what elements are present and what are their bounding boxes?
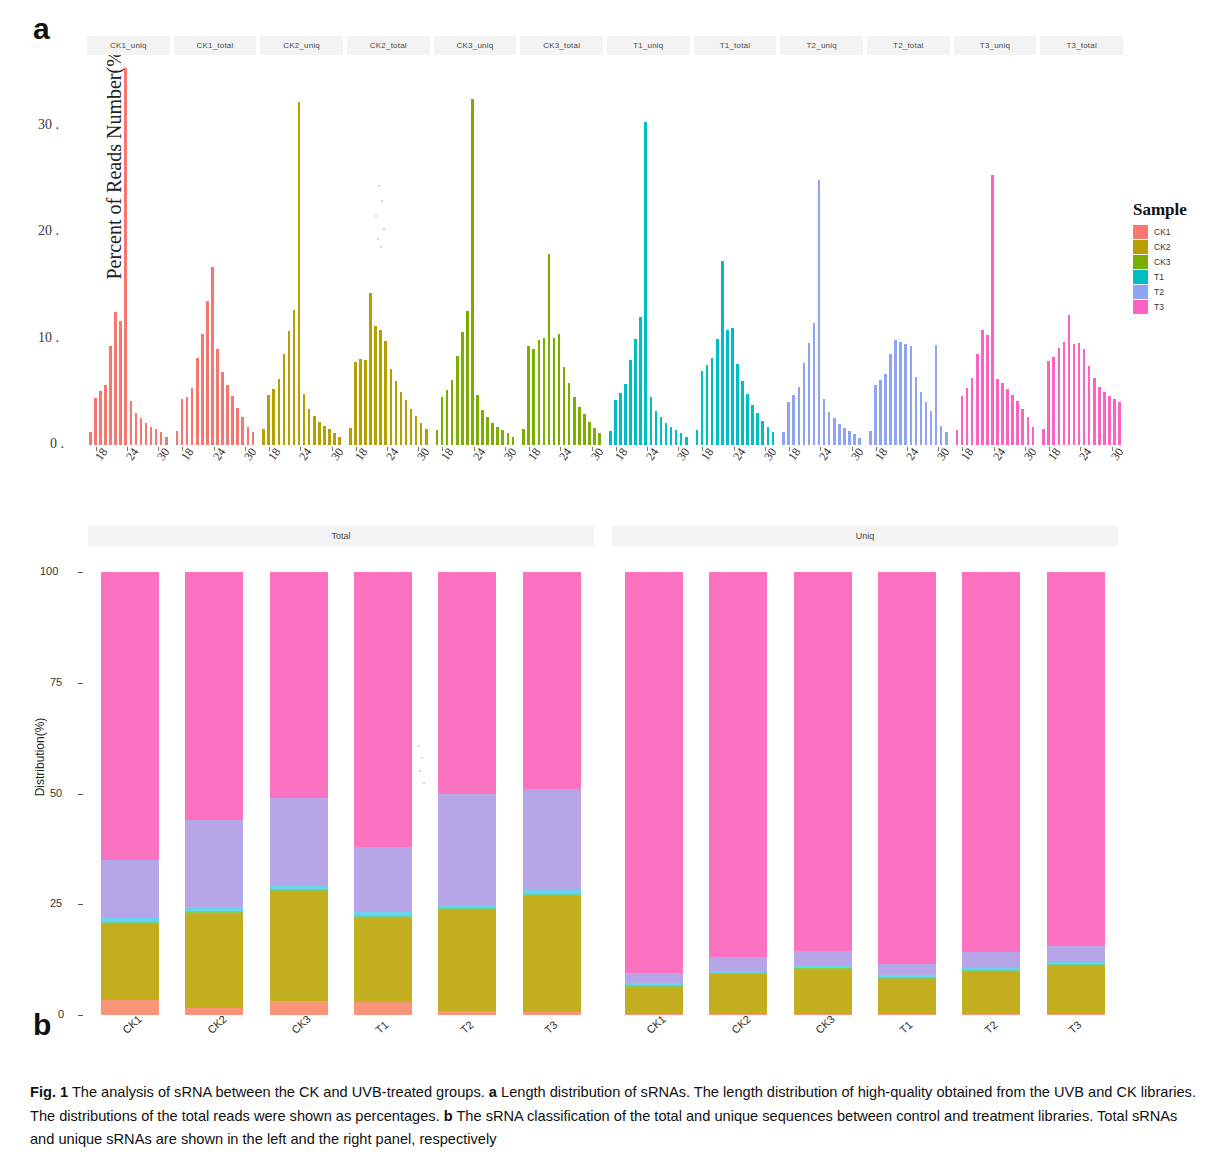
panel-a-legend-label: CK1 — [1154, 227, 1171, 237]
panel-a-bar — [446, 390, 449, 445]
panel-a-bar — [201, 334, 204, 445]
panel-a-legend-item[interactable]: T3 — [1133, 300, 1187, 314]
panel-a-bar — [94, 398, 97, 445]
panel-a-bar — [252, 432, 255, 445]
panel-a-x-tick-label: 18 — [612, 445, 631, 463]
panel-b-x-tick-label: CK1 — [120, 1013, 144, 1036]
panel-a-bar — [124, 68, 127, 445]
panel-a-bar — [930, 411, 933, 445]
panel-a-bar — [466, 311, 469, 445]
panel-a-facet-strip: T2_total — [867, 36, 950, 55]
panel-a-bar — [685, 437, 688, 446]
panel-a-bar — [451, 380, 454, 445]
figure-root: a Percent of Reads Number(%) 0 .10 .20 .… — [0, 0, 1231, 1169]
panel-a-legend-item[interactable]: T2 — [1133, 285, 1187, 299]
panel-b-bar-segment — [625, 987, 683, 1014]
panel-a-bar — [135, 413, 138, 445]
panel-a-facet-strip: CK2_uniq — [260, 36, 343, 55]
panel-a-facet-label: CK2_uniq — [283, 41, 320, 50]
panel-a-bar — [991, 175, 994, 445]
panel-a-bar — [670, 427, 673, 445]
panel-a-bar — [634, 339, 637, 445]
panel-a-legend-item[interactable]: CK1 — [1133, 225, 1187, 239]
panel-a-x-tick-label: 18 — [958, 445, 977, 463]
panel-a-bar — [1103, 392, 1106, 445]
panel-b-facet-strip: Total — [88, 526, 594, 546]
panel-b-x-tick-label: CK1 — [644, 1013, 668, 1036]
panel-b-bar-segment — [1047, 946, 1105, 962]
panel-a-bar — [206, 301, 209, 445]
panel-b-bar-segment — [709, 572, 767, 957]
panel-a-facet: T2_total — [865, 62, 952, 445]
panel-a-bar — [848, 431, 851, 445]
panel-a-facet-label: CK3_total — [543, 41, 580, 50]
panel-a-facet-strip: T1_uniq — [607, 36, 690, 55]
panel-a-x-tick-label: 30 — [588, 445, 607, 463]
panel-a-bar — [701, 371, 704, 445]
panel-a-bar — [624, 384, 627, 445]
panel-a-bar — [308, 409, 311, 445]
panel-a-bar — [879, 380, 882, 445]
panel-a-bar — [1001, 383, 1004, 445]
panel-a-bar — [181, 399, 184, 445]
panel-a-bar — [1068, 315, 1071, 445]
scan-artifact-speck — [419, 770, 421, 772]
panel-a-bar — [629, 360, 632, 445]
panel-a-x-tick-label: 30 — [328, 445, 347, 463]
panel-a-bar — [986, 335, 989, 445]
panel-b-stacked-bar — [794, 572, 852, 1015]
panel-a-bar — [1006, 389, 1009, 445]
panel-b-bar-segment — [523, 1012, 581, 1015]
panel-a-bar — [359, 359, 362, 445]
panel-b-bar-segment — [270, 891, 328, 1001]
panel-a-bar — [578, 407, 581, 445]
panel-a-facet-label: CK3_uniq — [457, 41, 494, 50]
panel-a-bar — [746, 394, 749, 445]
panel-a-bar — [736, 364, 739, 445]
panel-a-legend-label: T2 — [1154, 287, 1164, 297]
panel-a-legend-item[interactable]: CK3 — [1133, 255, 1187, 269]
panel-a-bar — [961, 396, 964, 445]
panel-a-bar — [114, 312, 117, 445]
panel-a-legend-item[interactable]: T1 — [1133, 270, 1187, 284]
panel-b-bar-group — [612, 572, 1118, 1015]
panel-a-bar — [808, 343, 811, 445]
panel-a-bar — [675, 430, 678, 445]
panel-a-bar — [512, 437, 515, 446]
panel-a-bar — [395, 381, 398, 445]
panel-a-bar — [109, 346, 112, 445]
panel-a-bar — [680, 433, 683, 445]
panel-a-x-tick-label: 18 — [872, 445, 891, 463]
panel-b-y-tickmark — [78, 904, 83, 905]
panel-a-bar — [323, 426, 326, 445]
panel-a-legend-item[interactable]: CK2 — [1133, 240, 1187, 254]
panel-a-facet: CK1_uniq — [85, 62, 172, 445]
panel-b-bar-segment — [185, 572, 243, 820]
panel-a-bar — [772, 432, 775, 445]
panel-a-bar — [716, 339, 719, 445]
panel-a-x-tick-label: 24 — [903, 445, 922, 463]
panel-a-bar — [548, 254, 551, 446]
panel-a-facet-label: CK1_uniq — [110, 41, 147, 50]
panel-a-bar — [420, 423, 423, 445]
panel-a-bar — [910, 346, 913, 445]
panel-a-bar — [89, 432, 92, 445]
panel-a-bar — [303, 394, 306, 445]
panel-a-bar — [400, 392, 403, 445]
panel-a-x-tick-label: 24 — [643, 445, 662, 463]
panel-b-bar-segment — [438, 572, 496, 794]
panel-a-bar — [415, 416, 418, 445]
panel-b-y-tickmark — [78, 1015, 83, 1016]
panel-a-y-tick-label: 20 . — [38, 223, 59, 239]
panel-b-x-tick-label: T2 — [458, 1018, 476, 1036]
panel-a-bar — [940, 426, 943, 445]
panel-b-bar-segment — [270, 572, 328, 798]
panel-a-bar — [818, 180, 821, 445]
panel-a-bar — [869, 431, 872, 445]
panel-a-bar — [283, 354, 286, 445]
panel-a-bar — [1042, 429, 1045, 445]
panel-b-bar-segment — [878, 979, 936, 1014]
panel-a-bar — [99, 391, 102, 445]
panel-a-bar — [272, 389, 275, 445]
panel-b-bar-segment — [185, 820, 243, 907]
